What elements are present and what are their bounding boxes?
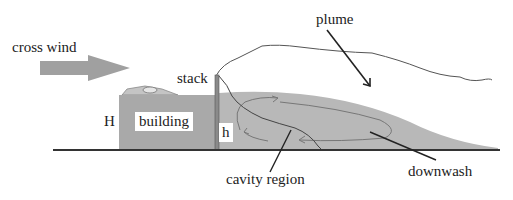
plume-outline [216,45,492,80]
stack-height-label: h [219,123,233,142]
cavity-region-label: cavity region [226,172,305,187]
plume-label: plume [316,12,354,27]
stack-label: stack [177,71,208,86]
plume-leader [327,30,370,86]
building-label: building [135,112,193,131]
downwash-label: downwash [408,164,472,179]
building-height-label: H [104,114,115,129]
cross-wind-arrow-icon [40,55,130,81]
wake-region [219,92,498,150]
cross-wind-label: cross wind [12,40,77,55]
rooftop-vent-icon [143,87,157,93]
